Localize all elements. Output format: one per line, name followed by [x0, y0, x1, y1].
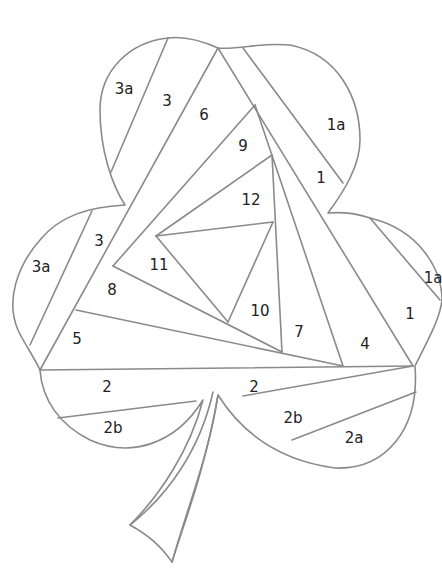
- region-label-1-top: 1: [316, 171, 326, 186]
- region-label-2b-left: 2b: [103, 421, 122, 436]
- region-label-7: 7: [294, 325, 304, 340]
- shamrock-pattern: [0, 0, 442, 582]
- region-label-9: 9: [238, 139, 248, 154]
- region-label-3-left: 3: [94, 234, 104, 249]
- line-3a-3-left: [30, 211, 92, 345]
- line-3a-3-top: [111, 38, 168, 172]
- line-7: [272, 155, 282, 352]
- region-label-8: 8: [107, 283, 117, 298]
- region-label-1-right: 1: [405, 307, 415, 322]
- region-label-2a: 2a: [345, 431, 364, 446]
- region-label-11: 11: [149, 258, 168, 273]
- stem-inner: [130, 392, 213, 525]
- region-label-3a-top: 3a: [115, 82, 134, 97]
- region-label-2-left: 2: [102, 380, 112, 395]
- shamrock-outline: [13, 37, 442, 562]
- region-label-1a-top: 1a: [327, 118, 346, 133]
- line-base: [40, 366, 413, 370]
- line-2-2b-left: [58, 401, 196, 418]
- region-label-2-right: 2: [249, 380, 259, 395]
- region-label-10: 10: [250, 304, 269, 319]
- stem-line: [172, 395, 218, 562]
- region-label-5: 5: [72, 332, 82, 347]
- region-label-3a-left: 3a: [32, 260, 51, 275]
- region-label-3-top: 3: [162, 94, 172, 109]
- region-label-4: 4: [360, 337, 370, 352]
- region-label-12: 12: [241, 193, 260, 208]
- line-11: [156, 236, 228, 322]
- region-label-2b-right: 2b: [283, 411, 302, 426]
- region-label-1a-right: 1a: [424, 271, 442, 286]
- line-9: [113, 105, 255, 266]
- line-2-2b-right: [243, 366, 413, 396]
- region-label-6: 6: [199, 108, 209, 123]
